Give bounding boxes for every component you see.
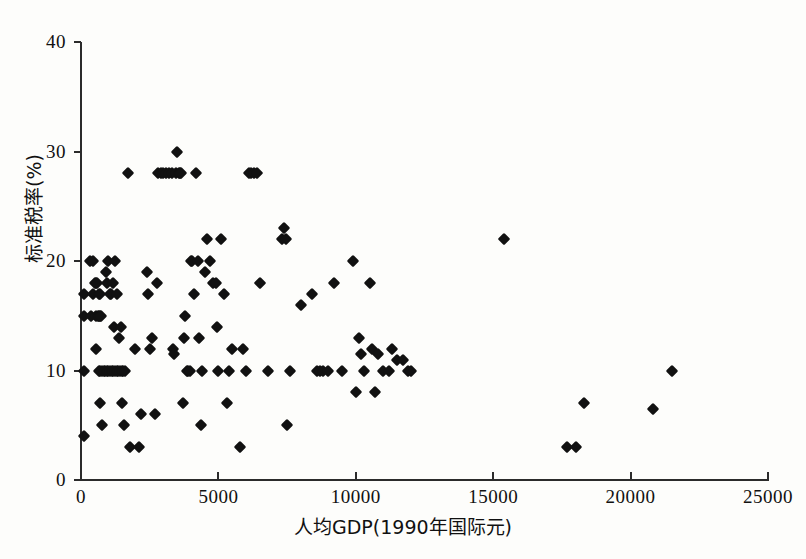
data-point — [261, 364, 274, 377]
data-point — [102, 364, 115, 377]
data-point — [355, 348, 368, 361]
x-tick-mark — [80, 472, 82, 479]
data-point — [169, 167, 182, 180]
data-point — [117, 364, 130, 377]
data-point — [190, 167, 203, 180]
data-point — [90, 309, 103, 322]
data-point — [234, 441, 247, 454]
data-point — [215, 233, 228, 246]
data-point — [160, 167, 173, 180]
data-point — [88, 277, 101, 290]
data-point — [209, 277, 222, 290]
data-point — [281, 419, 294, 432]
data-point — [237, 342, 250, 355]
data-point — [377, 364, 390, 377]
data-point — [168, 348, 181, 361]
data-point — [178, 331, 191, 344]
data-point — [349, 386, 362, 399]
data-point — [90, 342, 103, 355]
data-point — [172, 167, 185, 180]
x-tick-label: 5000 — [198, 486, 238, 508]
data-point — [179, 309, 192, 322]
data-point — [96, 419, 109, 432]
data-point — [283, 364, 296, 377]
data-point — [119, 364, 132, 377]
data-point — [404, 364, 417, 377]
data-point — [207, 277, 220, 290]
data-point — [128, 342, 141, 355]
data-point — [167, 342, 180, 355]
data-point — [92, 287, 105, 300]
data-point — [185, 255, 198, 268]
data-point — [218, 287, 231, 300]
data-point — [391, 353, 404, 366]
data-point — [174, 167, 187, 180]
x-axis-line — [81, 479, 769, 481]
data-point — [665, 364, 678, 377]
data-point — [95, 309, 108, 322]
data-point — [86, 287, 99, 300]
data-point — [196, 364, 209, 377]
data-point — [109, 364, 122, 377]
x-axis-label: 人均GDP(1990年国际元) — [0, 512, 806, 539]
data-point — [163, 167, 176, 180]
data-point — [143, 342, 156, 355]
y-axis-label: 标准税率(%) — [19, 114, 46, 304]
y-tick-label: 10 — [0, 360, 66, 382]
y-tick-mark — [74, 151, 81, 153]
data-point — [371, 348, 384, 361]
data-point — [103, 287, 116, 300]
data-point — [182, 364, 195, 377]
x-tick-label: 20000 — [606, 486, 656, 508]
data-point — [114, 364, 127, 377]
data-point — [194, 419, 207, 432]
x-tick-mark — [630, 472, 632, 479]
data-point — [212, 364, 225, 377]
data-point — [311, 364, 324, 377]
data-point — [152, 167, 165, 180]
data-point — [113, 331, 126, 344]
data-point — [220, 397, 233, 410]
data-point — [105, 364, 118, 377]
data-point — [85, 309, 98, 322]
data-point — [193, 331, 206, 344]
data-point — [90, 277, 103, 290]
data-point — [245, 167, 258, 180]
data-point — [115, 364, 128, 377]
data-point — [124, 441, 137, 454]
data-point — [96, 364, 109, 377]
data-point — [223, 364, 236, 377]
data-point — [191, 255, 204, 268]
y-tick-mark — [74, 479, 81, 481]
data-point — [116, 397, 129, 410]
x-tick-mark — [355, 472, 357, 479]
data-point — [314, 364, 327, 377]
data-point — [402, 364, 415, 377]
data-point — [97, 364, 110, 377]
x-tick-label: 15000 — [468, 486, 518, 508]
scatter-chart-figure: 0500010000150002000025000 010203040 人均GD… — [0, 0, 806, 559]
data-point — [275, 233, 288, 246]
data-point — [109, 255, 122, 268]
data-point — [569, 441, 582, 454]
data-point — [186, 255, 199, 268]
data-point — [154, 167, 167, 180]
data-point — [112, 364, 125, 377]
data-point — [358, 364, 371, 377]
data-point — [86, 255, 99, 268]
data-point — [382, 364, 395, 377]
data-point — [316, 364, 329, 377]
data-point — [226, 342, 239, 355]
data-point — [498, 233, 511, 246]
data-point — [105, 287, 118, 300]
data-point — [187, 287, 200, 300]
data-point — [242, 167, 255, 180]
data-point — [175, 167, 188, 180]
y-tick-mark — [74, 260, 81, 262]
x-tick-mark — [217, 472, 219, 479]
data-point — [204, 255, 217, 268]
data-point — [93, 309, 106, 322]
data-point — [107, 364, 120, 377]
data-point — [165, 167, 178, 180]
data-point — [142, 287, 155, 300]
